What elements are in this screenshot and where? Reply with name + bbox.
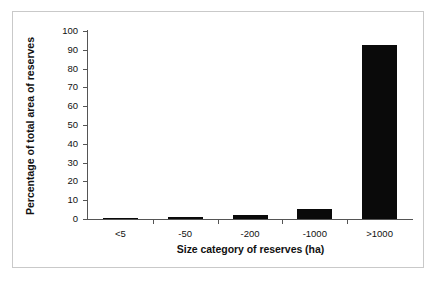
x-tick-label: <5 — [85, 228, 155, 239]
y-tick-label: 10 — [48, 195, 78, 205]
y-tick-mark — [83, 219, 88, 220]
y-tick-mark — [83, 87, 88, 88]
bar — [233, 215, 268, 219]
y-tick-mark — [83, 106, 88, 107]
y-tick-label: 60 — [48, 101, 78, 111]
y-tick-label: 70 — [48, 82, 78, 92]
figure-root: Percentage of total area of reserves 010… — [0, 0, 436, 283]
x-tick-mark — [153, 219, 154, 224]
y-tick-label: 40 — [48, 139, 78, 149]
y-tick-mark — [83, 50, 88, 51]
bar — [103, 218, 138, 219]
y-tick-label: 0 — [48, 214, 78, 224]
bar — [362, 45, 397, 219]
x-tick-label: -200 — [215, 228, 285, 239]
y-tick-mark — [83, 200, 88, 201]
x-tick-mark — [347, 219, 348, 224]
y-tick-mark — [83, 31, 88, 32]
x-tick-label: -1000 — [280, 228, 350, 239]
bar — [168, 217, 203, 219]
x-axis-title: Size category of reserves (ha) — [88, 243, 413, 255]
y-tick-mark — [83, 69, 88, 70]
y-tick-label: 80 — [48, 64, 78, 74]
x-tick-mark — [218, 219, 219, 224]
y-tick-label: 90 — [48, 45, 78, 55]
y-axis-title-text: Percentage of total area of reserves — [24, 30, 36, 222]
x-axis-line — [88, 219, 413, 220]
x-tick-mark — [282, 219, 283, 224]
y-tick-mark — [83, 125, 88, 126]
y-tick-label: 20 — [48, 176, 78, 186]
y-tick-label: 50 — [48, 120, 78, 130]
bar — [297, 209, 332, 219]
x-tick-label: >1000 — [345, 228, 415, 239]
y-tick-label: 100 — [48, 26, 78, 36]
y-tick-mark — [83, 181, 88, 182]
y-tick-mark — [83, 163, 88, 164]
y-tick-mark — [83, 144, 88, 145]
y-tick-label: 30 — [48, 158, 78, 168]
x-tick-label: -50 — [150, 228, 220, 239]
